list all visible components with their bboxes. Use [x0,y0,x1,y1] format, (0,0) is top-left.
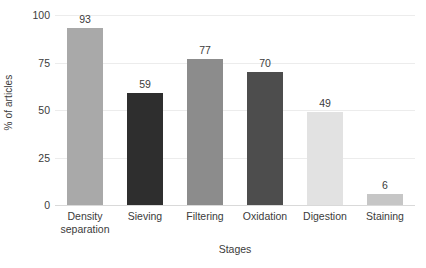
bar-group: 6 [355,15,415,205]
bar [127,93,163,205]
bar-group: 59 [115,15,175,205]
y-axis-tick-labels: 0255075100 [12,15,50,205]
y-tick-label-50: 50 [16,104,50,116]
x-tick-label: Density separation [55,210,115,235]
bar [67,28,103,205]
x-axis-title: Stages [55,243,415,255]
bar [247,72,283,205]
bar-value-label: 93 [79,13,91,25]
y-tick-label-75: 75 [16,57,50,69]
x-axis-tick-labels: Density separationSievingFilteringOxidat… [55,210,415,240]
x-tick-label: Staining [355,210,415,223]
bar-value-label: 49 [319,97,331,109]
bar-value-label: 77 [199,44,211,56]
y-tick-label-25: 25 [16,152,50,164]
x-tick-label: Oxidation [235,210,295,223]
bar-group: 93 [55,15,115,205]
x-tick-label: Filtering [175,210,235,223]
bar [307,112,343,205]
x-tick-label: Digestion [295,210,355,223]
bar [187,59,223,205]
bar-chart: % of articles 0255075100 93597770496 Den… [0,0,426,268]
x-tick-label: Sieving [115,210,175,223]
bar [367,194,403,205]
plot-area: 93597770496 [55,15,415,205]
bar-value-label: 70 [259,57,271,69]
y-tick-label-0: 0 [16,199,50,211]
bar-group: 70 [235,15,295,205]
bar-value-label: 59 [139,78,151,90]
bar-value-label: 6 [382,179,388,191]
bar-group: 49 [295,15,355,205]
bar-group: 77 [175,15,235,205]
x-axis-line [55,205,415,206]
y-tick-label-100: 100 [16,9,50,21]
